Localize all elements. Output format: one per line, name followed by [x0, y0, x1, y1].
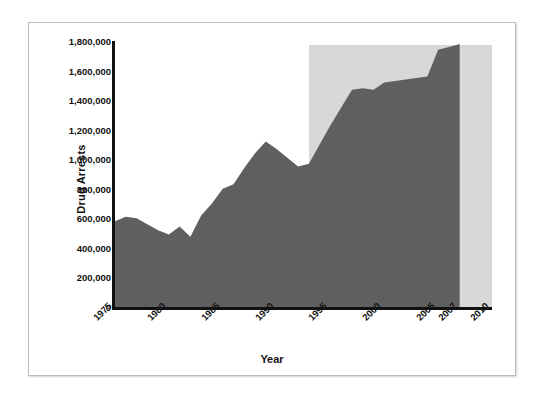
y-tick-label: 200,000	[51, 272, 111, 283]
y-tick-label: 400,000	[51, 242, 111, 253]
y-tick-label: 1,400,000	[51, 95, 111, 106]
drug-arrests-area-series	[115, 41, 492, 307]
chart-plot-wrapper: Drug Arrests 0200,000400,000600,000800,0…	[29, 23, 515, 375]
x-axis-title: Year	[29, 353, 515, 365]
y-tick-label: 600,000	[51, 213, 111, 224]
y-tick-label: 1,000,000	[51, 154, 111, 165]
y-tick-label: 1,200,000	[51, 124, 111, 135]
y-tick-label: 1,600,000	[51, 65, 111, 76]
chart-figure-frame: Drug Arrests 0200,000400,000600,000800,0…	[28, 22, 516, 376]
x-axis-tick-labels: 197519801985199019952000200520072010	[29, 311, 515, 357]
plot-area	[115, 41, 492, 307]
y-tick-label: 800,000	[51, 183, 111, 194]
y-tick-label: 1,800,000	[51, 36, 111, 47]
